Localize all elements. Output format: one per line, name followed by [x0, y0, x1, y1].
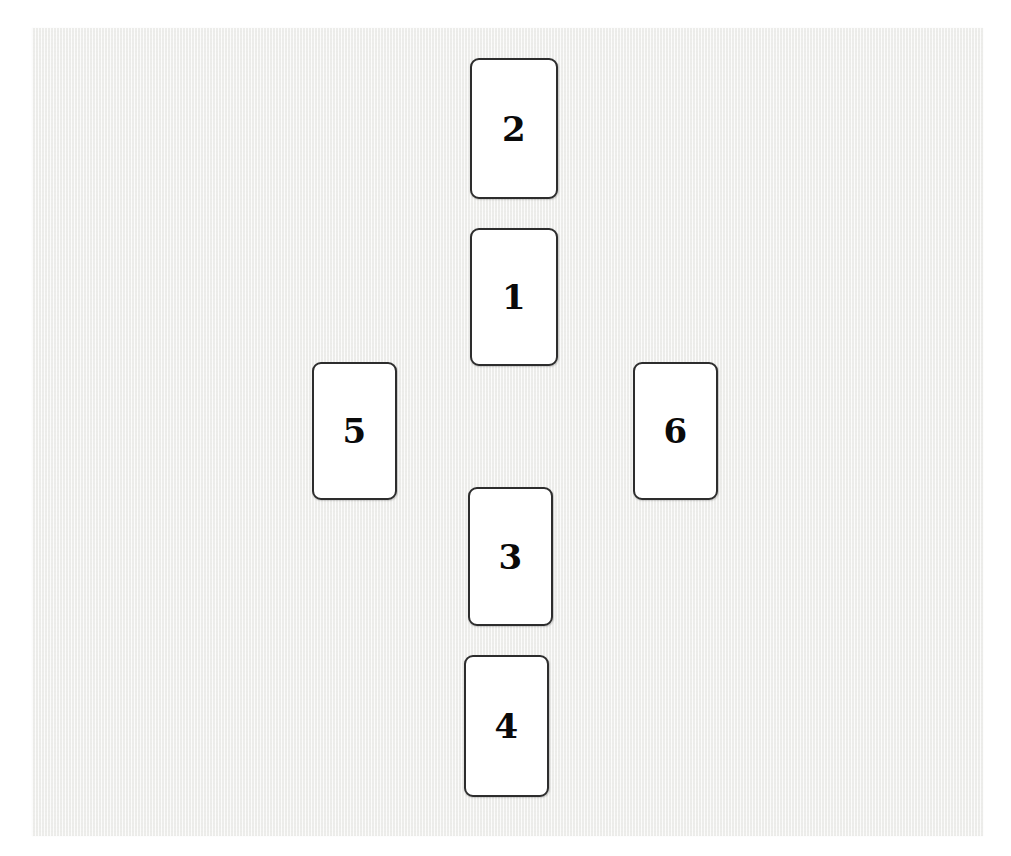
card-label: 6 [663, 414, 687, 448]
card-5[interactable]: 5 [312, 362, 397, 500]
card-label: 4 [494, 709, 518, 743]
card-1[interactable]: 1 [470, 228, 558, 366]
card-6[interactable]: 6 [633, 362, 718, 500]
card-label: 5 [342, 414, 366, 448]
card-label: 2 [502, 112, 526, 146]
card-2[interactable]: 2 [470, 58, 558, 199]
card-label: 3 [498, 540, 522, 574]
card-label: 1 [502, 280, 526, 314]
card-4[interactable]: 4 [464, 655, 549, 797]
scene-root: 2 1 5 6 3 4 [0, 0, 1011, 856]
card-3[interactable]: 3 [468, 487, 553, 626]
